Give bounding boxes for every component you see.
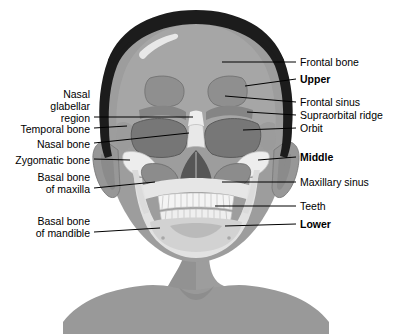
label-temporal-bone: Temporal bone: [0, 123, 90, 135]
label-basal-bone-of-mandible-line1: Basal bone: [0, 215, 90, 227]
label-middle: Middle: [300, 151, 333, 163]
label-nasal-glabellar-region-line1: Nasal: [0, 88, 90, 100]
label-frontal-bone: Frontal bone: [300, 56, 359, 68]
label-nasal-bone: Nasal bone: [0, 138, 90, 150]
nasal-bone-shape: [187, 125, 205, 149]
nasal-glabellar-region-shape: [188, 111, 204, 127]
head-anatomy-illustration: [0, 0, 393, 334]
label-basal-bone-of-maxilla-line2: of maxilla: [0, 183, 90, 195]
mental-foramen-right: [227, 236, 231, 240]
label-basal-bone-of-maxilla-line1: Basal bone: [0, 171, 90, 183]
label-orbit: Orbit: [300, 122, 323, 134]
mental-foramen-left: [161, 236, 165, 240]
torso-group: [63, 258, 329, 334]
label-basal-bone-of-mandible-line2: of mandible: [0, 227, 90, 239]
frontal-sinus-right: [208, 76, 247, 107]
label-upper: Upper: [300, 73, 330, 85]
label-supraorbital-ridge: Supraorbital ridge: [300, 109, 383, 121]
neck-shadow-left: [168, 258, 196, 290]
orbit-right: [205, 119, 261, 158]
label-teeth: Teeth: [300, 200, 326, 212]
label-frontal-sinus: Frontal sinus: [300, 96, 360, 108]
figure-canvas: Frontal bone Upper Frontal sinus Supraor…: [0, 0, 393, 334]
shoulders-shape: [63, 285, 329, 334]
label-maxillary-sinus: Maxillary sinus: [300, 176, 369, 188]
label-zygomatic-bone: Zygomatic bone: [0, 154, 90, 166]
label-nasal-glabellar-region-line2: glabellar: [0, 100, 90, 112]
label-lower: Lower: [300, 218, 331, 230]
frontal-sinus-left: [145, 76, 184, 107]
